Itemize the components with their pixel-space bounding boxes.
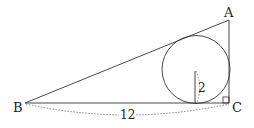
inscribed-circle xyxy=(162,36,230,104)
bc-length-label: 12 xyxy=(120,108,135,122)
radius-label: 2 xyxy=(198,81,206,95)
vertex-label-c: C xyxy=(232,100,242,115)
vertex-label-b: B xyxy=(13,100,23,115)
vertex-label-a: A xyxy=(223,5,234,20)
triangle-diagram: A B C 2 12 xyxy=(0,0,254,128)
right-angle-marker xyxy=(223,97,229,103)
